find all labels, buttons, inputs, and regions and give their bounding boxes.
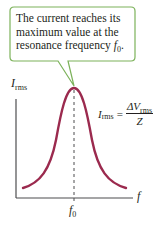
x-tick-label-f0: f0 (69, 203, 76, 218)
callout-line-3: resonance frequency f0. (16, 39, 134, 54)
x-axis-label: f (137, 189, 140, 204)
current-formula: Irms = ΔVrms Z (98, 100, 153, 127)
formula-fraction: ΔVrms Z (126, 100, 153, 127)
y-axis-label: Irms (11, 76, 27, 91)
callout-annotation: The current reaches its maximum value at… (16, 12, 134, 54)
callout-line-1: The current reaches its (16, 12, 134, 26)
callout-line-2: maximum value at the (16, 26, 134, 40)
